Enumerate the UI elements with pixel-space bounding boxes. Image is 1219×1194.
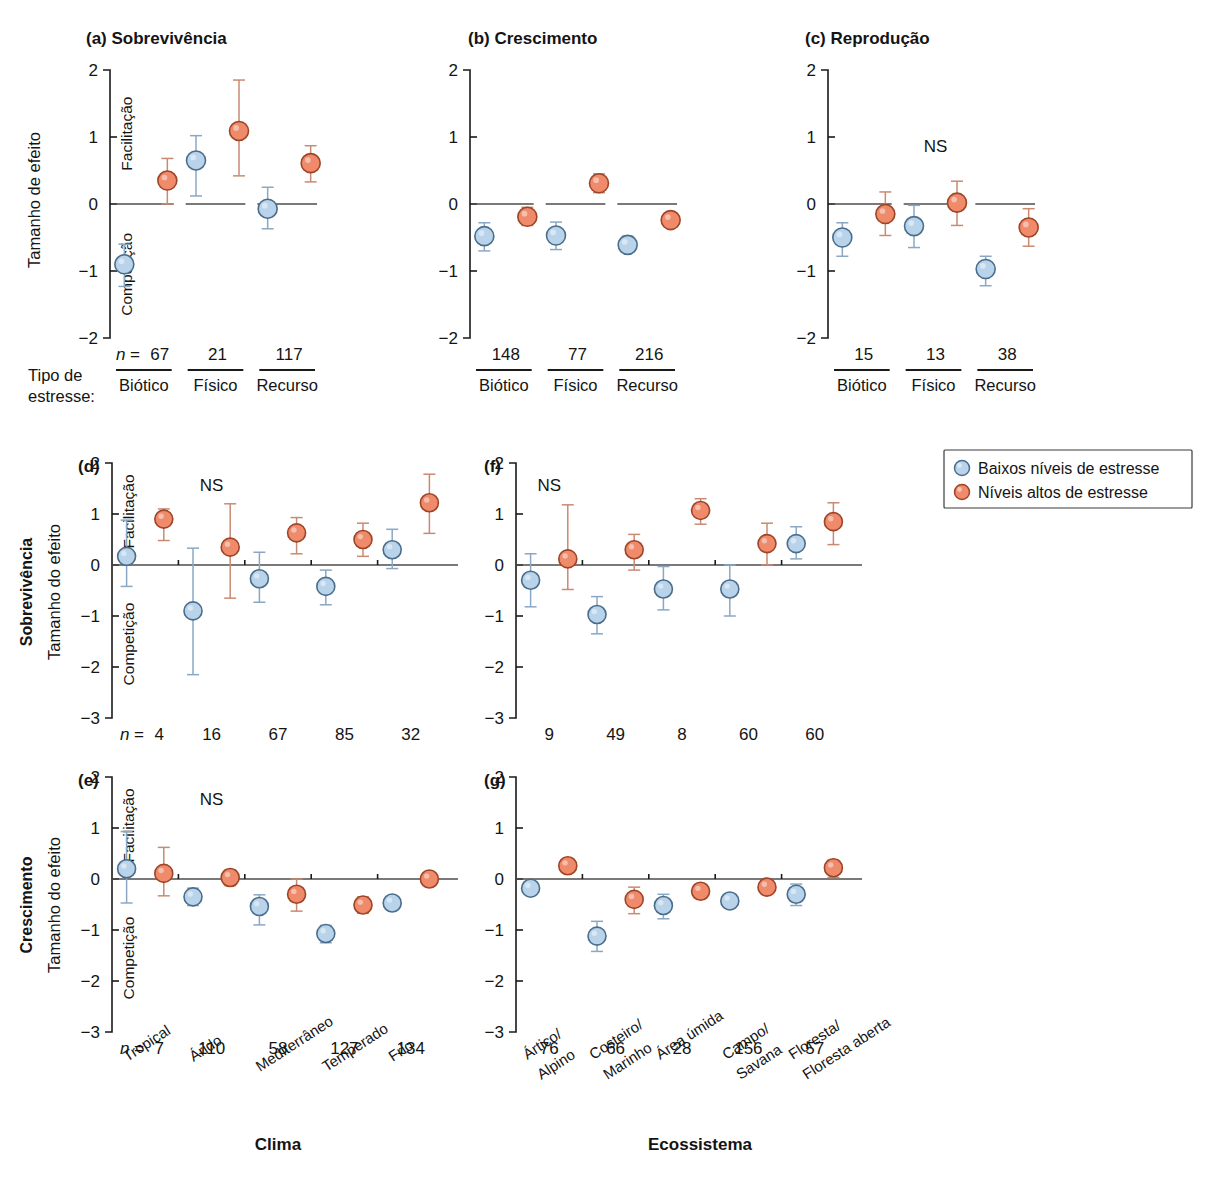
marker-high-stress xyxy=(824,513,842,531)
n-equals-a: = xyxy=(130,345,140,364)
facilitation-label-e: Facilitação xyxy=(120,788,137,862)
marker-low-stress xyxy=(833,228,852,247)
y-axis-title-a: Tamanho de efeito xyxy=(25,132,43,268)
panel-b-y-axis xyxy=(463,70,470,338)
panel-e-ytick-label: 0 xyxy=(91,870,100,889)
marker-low-stress xyxy=(721,580,739,598)
panel-e-point-high-2 xyxy=(288,879,306,911)
marker-low-stress xyxy=(118,547,136,565)
panel-c-point-high-0 xyxy=(876,192,895,236)
marker-low-stress xyxy=(905,217,924,236)
marker-highlight xyxy=(629,894,634,899)
panel-a-point-low-2 xyxy=(258,187,277,229)
legend-label-1: Níveis altos de estresse xyxy=(978,484,1148,501)
panel-g-ytick-label: 0 xyxy=(495,870,504,889)
marker-highlight xyxy=(762,882,767,887)
marker-highlight xyxy=(320,581,325,586)
panel-g-point-low-2 xyxy=(654,894,672,918)
panel-d-point-high-1 xyxy=(221,504,239,598)
marker-low-stress xyxy=(317,577,335,595)
panel-d-ytick-label: −2 xyxy=(81,658,100,677)
panel-e-point-low-3 xyxy=(317,925,335,943)
marker-high-stress xyxy=(221,538,239,556)
marker-high-stress xyxy=(155,864,173,882)
panel-b-point-low-1 xyxy=(547,222,566,249)
marker-highlight xyxy=(658,583,663,588)
marker-high-stress xyxy=(692,882,710,900)
marker-high-stress xyxy=(230,121,249,140)
panel-a-point-high-1 xyxy=(230,80,249,176)
panel-d-ytick-label: 0 xyxy=(91,556,100,575)
marker-high-stress xyxy=(824,859,842,877)
marker-low-stress xyxy=(475,227,494,246)
panel-c-point-low-2 xyxy=(976,256,995,285)
panel-d-n-0: 4 xyxy=(154,725,163,744)
marker-high-stress xyxy=(354,531,372,549)
panel-b-ytick-label: −2 xyxy=(439,329,458,348)
marker-high-stress xyxy=(758,535,776,553)
marker-highlight xyxy=(622,239,628,245)
legend-label-0: Baixos níveis de estresse xyxy=(978,460,1160,477)
panel-d-point-low-2 xyxy=(250,552,268,602)
figure-canvas: (a) Sobrevivência210−1−2FacilitaçãoCompe… xyxy=(0,0,1219,1194)
panel-a-title: (a) Sobrevivência xyxy=(86,29,227,48)
marker-highlight xyxy=(695,886,700,891)
panel-a-category-0: Biótico xyxy=(119,376,169,394)
panel-d-n-2: 67 xyxy=(269,725,288,744)
panel-f-point-high-3 xyxy=(758,523,776,565)
marker-high-stress xyxy=(301,154,320,173)
n-italic-a: n xyxy=(116,345,125,364)
panel-f-point-high-2 xyxy=(692,499,710,525)
panel-d-ytick-label: −1 xyxy=(81,607,100,626)
panel-d-point-high-2 xyxy=(288,518,306,554)
panel-e-point-high-1 xyxy=(221,868,239,886)
panel-d-ns-label-1: NS xyxy=(200,476,224,495)
panel-c-ytick-label: 0 xyxy=(807,195,816,214)
marker-high-stress xyxy=(692,501,710,519)
marker-highlight xyxy=(424,873,429,878)
marker-highlight xyxy=(254,573,259,578)
panel-c-point-low-1 xyxy=(905,205,924,247)
panel-b-category-0: Biótico xyxy=(479,376,529,394)
marker-low-stress xyxy=(976,259,995,278)
panel-d-ytick-label: 1 xyxy=(91,505,100,524)
marker-high-stress xyxy=(420,870,438,888)
marker-highlight xyxy=(262,203,268,209)
marker-highlight xyxy=(593,177,599,183)
marker-low-stress xyxy=(184,602,202,620)
marker-highlight xyxy=(980,263,986,269)
marker-low-stress xyxy=(184,888,202,906)
panel-d-point-low-1 xyxy=(184,548,202,674)
panel-d-point-high-4 xyxy=(420,474,438,533)
marker-highlight xyxy=(522,211,528,217)
marker-high-stress xyxy=(420,494,438,512)
n-equals-d: = xyxy=(134,725,144,744)
panel-a-n-2: 117 xyxy=(276,345,303,364)
panel-f-ytick-label: 1 xyxy=(495,505,504,524)
marker-highlight xyxy=(254,901,259,906)
panel-b-n-1: 77 xyxy=(568,345,587,364)
panel-b-ytick-label: 2 xyxy=(449,61,458,80)
panel-e-ytick-label: −3 xyxy=(81,1023,100,1042)
panel-a-n-0: 67 xyxy=(150,345,169,364)
marker-highlight xyxy=(188,891,193,896)
panel-b-point-low-0 xyxy=(475,223,494,251)
panel-a-ytick-label: 1 xyxy=(89,128,98,147)
marker-low-stress xyxy=(618,235,637,254)
panel-g-point-high-3 xyxy=(758,878,776,896)
panel-f-n-1: 49 xyxy=(606,725,625,744)
panel-b-point-high-0 xyxy=(518,207,537,226)
legend-marker-low-stress xyxy=(955,461,970,476)
panel-g-point-low-3 xyxy=(721,892,739,910)
marker-highlight xyxy=(951,197,957,203)
marker-highlight xyxy=(233,125,239,131)
panel-e-ytick-label: −2 xyxy=(81,972,100,991)
marker-low-stress xyxy=(522,571,540,589)
panel-g-point-high-1 xyxy=(625,887,643,914)
panel-b-ytick-label: −1 xyxy=(439,262,458,281)
marker-highlight xyxy=(828,862,833,867)
marker-highlight xyxy=(880,208,886,214)
marker-high-stress xyxy=(625,541,643,559)
marker-highlight xyxy=(695,505,700,510)
marker-highlight xyxy=(320,928,325,933)
